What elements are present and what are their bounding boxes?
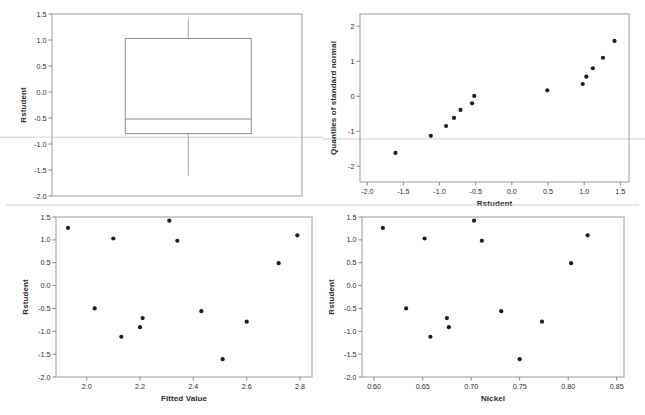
diagnostic-plot-figure: 1.51.00.50.0-0.5-1.0-1.5-2.0Rstudent 210… <box>0 0 645 415</box>
x-tick-label: 0.60 <box>367 382 381 391</box>
data-point <box>480 239 484 243</box>
data-point <box>141 316 145 320</box>
y-tick-label: 2 <box>351 22 355 31</box>
y-tick-label: 0.0 <box>37 88 47 97</box>
data-point <box>404 306 408 310</box>
residual-vs-nickel-canvas: 1.51.00.50.0-0.5-1.0-1.5-2.00.600.650.70… <box>322 205 645 415</box>
data-point <box>422 236 426 240</box>
x-tick-label: 0.85 <box>610 382 624 391</box>
data-point <box>175 239 179 243</box>
y-tick-label: 0 <box>351 92 355 101</box>
y-tick-label: 1 <box>351 57 355 66</box>
y-tick-label: -1.0 <box>344 327 356 336</box>
y-tick-label: 0.5 <box>347 258 357 267</box>
y-tick-label: 1.5 <box>347 213 357 222</box>
y-tick-label: -1 <box>348 127 354 136</box>
boxplot-canvas: 1.51.00.50.0-0.5-1.0-1.5-2.0Rstudent <box>0 0 322 205</box>
x-tick-label: 0.75 <box>513 382 527 391</box>
data-point <box>111 236 115 240</box>
residual-vs-fitted-canvas: 1.51.00.50.0-0.5-1.0-1.5-2.02.02.22.42.6… <box>0 205 322 415</box>
y-tick-label: -0.5 <box>34 114 46 123</box>
x-tick-label: 0.0 <box>507 187 517 196</box>
data-point <box>295 233 299 237</box>
data-point <box>586 233 590 237</box>
data-point <box>393 151 397 155</box>
y-tick-label: 0.5 <box>37 62 47 71</box>
data-point <box>447 325 451 329</box>
data-point <box>119 335 123 339</box>
x-tick-label: -2.0 <box>361 187 373 196</box>
panel-residual-vs-fitted: 1.51.00.50.0-0.5-1.0-1.5-2.02.02.22.42.6… <box>0 205 322 415</box>
panel-qqplot: 210-1-2-2.0-1.5-1.0-0.50.00.51.01.5Rstud… <box>322 0 645 205</box>
x-tick-label: 2.4 <box>188 382 198 391</box>
data-point <box>199 309 203 313</box>
plot-frame <box>360 14 629 182</box>
data-point <box>138 325 142 329</box>
data-point <box>518 357 522 361</box>
x-tick-label: 2.6 <box>242 382 252 391</box>
y-tick-label: -1.5 <box>34 166 46 175</box>
data-point <box>584 75 588 79</box>
x-tick-label: -1.5 <box>397 187 409 196</box>
data-point <box>429 134 433 138</box>
y-tick-label: 1.5 <box>37 10 47 19</box>
y-tick-label: 0.5 <box>41 258 51 267</box>
y-tick-label: -1.0 <box>34 140 46 149</box>
y-tick-label: -1.5 <box>38 350 50 359</box>
y-tick-label: -0.5 <box>344 304 356 313</box>
y-tick-label: -2.0 <box>34 192 46 201</box>
data-point <box>381 226 385 230</box>
plot-frame <box>56 217 312 377</box>
data-point <box>66 226 70 230</box>
y-tick-label: 0.0 <box>347 281 357 290</box>
y-tick-label: -2 <box>348 162 354 171</box>
y-axis-title: Rstudent <box>327 279 336 315</box>
x-tick-label: 2.8 <box>295 382 305 391</box>
data-point <box>591 66 595 70</box>
data-point <box>445 316 449 320</box>
x-tick-label: 0.5 <box>543 187 553 196</box>
data-point <box>452 116 456 120</box>
y-tick-label: 1.0 <box>37 36 47 45</box>
data-point <box>444 124 448 128</box>
y-tick-label: 0.0 <box>41 281 51 290</box>
data-point <box>277 261 281 265</box>
x-tick-label: 0.65 <box>416 382 430 391</box>
data-point <box>472 94 476 98</box>
data-point <box>569 261 573 265</box>
data-point <box>93 306 97 310</box>
data-point <box>221 357 225 361</box>
panel-boxplot: 1.51.00.50.0-0.5-1.0-1.5-2.0Rstudent <box>0 0 322 205</box>
y-tick-label: -1.5 <box>344 350 356 359</box>
data-point <box>470 101 474 105</box>
x-axis-title: Fitted Value <box>161 394 208 403</box>
y-tick-label: -2.0 <box>344 373 356 382</box>
x-tick-label: 1.0 <box>579 187 589 196</box>
data-point <box>458 108 462 112</box>
data-point <box>601 56 605 60</box>
data-point <box>540 320 544 324</box>
x-tick-label: 1.5 <box>615 187 625 196</box>
data-point <box>545 88 549 92</box>
row-divider <box>0 202 645 208</box>
x-tick-label: 2.2 <box>135 382 145 391</box>
y-axis-title: Rstudent <box>19 87 28 123</box>
x-tick-label: 0.70 <box>464 382 478 391</box>
plot-frame <box>362 217 624 377</box>
data-point <box>472 219 476 223</box>
data-point <box>499 309 503 313</box>
x-axis-title: Nickel <box>481 394 505 403</box>
x-tick-label: -1.0 <box>433 187 445 196</box>
x-tick-label: -0.5 <box>470 187 482 196</box>
plot-frame <box>52 14 302 196</box>
data-point <box>581 82 585 86</box>
x-tick-label: 0.80 <box>561 382 575 391</box>
y-axis-title: Quantiles of standard normal <box>329 41 338 155</box>
y-tick-label: -0.5 <box>38 304 50 313</box>
qqplot-canvas: 210-1-2-2.0-1.5-1.0-0.50.00.51.01.5Rstud… <box>322 0 645 205</box>
y-tick-label: 1.5 <box>41 213 51 222</box>
y-tick-label: 1.0 <box>41 235 51 244</box>
y-tick-label: 1.0 <box>347 235 357 244</box>
y-tick-label: -2.0 <box>38 373 50 382</box>
data-point <box>428 335 432 339</box>
